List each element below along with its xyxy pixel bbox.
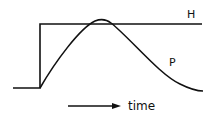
label-p: P <box>169 56 176 69</box>
time-arrow-head-icon <box>112 103 121 109</box>
label-time: time <box>128 99 155 113</box>
label-h: H <box>187 8 195 21</box>
curve-p <box>40 20 203 91</box>
diagram-canvas: H P time <box>0 0 217 116</box>
